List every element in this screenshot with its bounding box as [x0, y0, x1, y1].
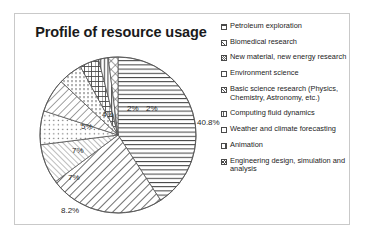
- legend-item[interactable]: New material, new energy research: [221, 53, 349, 62]
- legend-item-label: Basic science research (Physics, Chemist…: [230, 85, 349, 102]
- pie-value-label: 7%: [72, 146, 84, 155]
- legend-item[interactable]: Environment science: [221, 69, 349, 78]
- screenshot-root: Profile of resource usage: [0, 0, 365, 240]
- legend-item-label: Animation: [230, 141, 263, 150]
- legend-item-label: Computing fluid dynamics: [230, 109, 315, 118]
- legend-item[interactable]: Basic science research (Physics, Chemist…: [221, 85, 349, 102]
- pie-value-label: 4%: [102, 110, 114, 119]
- pie-value-label: 40.8%: [197, 118, 220, 127]
- pattern-horizontal-lines-swatch: [221, 24, 227, 30]
- chart-frame: Profile of resource usage: [14, 13, 350, 225]
- legend-item[interactable]: Engineering design, simulation and analy…: [221, 157, 349, 174]
- legend-item-label: New material, new energy research: [230, 53, 346, 62]
- legend-item-label: Environment science: [230, 69, 299, 78]
- legend-item-label: Petroleum exploration: [230, 22, 302, 31]
- pie-chart-area: Profile of resource usage: [15, 14, 225, 224]
- pie-value-label: 7%: [68, 173, 80, 182]
- pattern-diagonal-fine-swatch: [221, 55, 227, 61]
- pie-value-label: 8.2%: [61, 206, 79, 215]
- pie-value-label: 2%: [146, 104, 158, 113]
- pie-svg: [39, 56, 197, 214]
- pattern-dots-swatch: [221, 71, 227, 77]
- pattern-brick-swatch: [221, 127, 227, 133]
- legend-item-label: Engineering design, simulation and analy…: [230, 157, 349, 174]
- pie-slices: [40, 57, 196, 213]
- pattern-diagonal-bold-swatch: [221, 40, 227, 46]
- legend-item[interactable]: Petroleum exploration: [221, 22, 349, 31]
- chart-legend: Petroleum explorationBiomedical research…: [221, 18, 349, 222]
- pie-value-label: 2%: [127, 104, 139, 113]
- legend-item-label: Biomedical research: [230, 38, 297, 47]
- pie-graphic: 40.8%24%8.2%7%7%5%4%2%2%: [39, 56, 197, 214]
- pie-value-label: 5%: [81, 122, 93, 131]
- legend-item[interactable]: Biomedical research: [221, 38, 349, 47]
- pattern-diagonal-swatch: [221, 87, 227, 93]
- pattern-vertical-dotted-swatch: [221, 111, 227, 117]
- legend-item-label: Weather and climate forecasting: [230, 125, 336, 134]
- legend-item[interactable]: Animation: [221, 141, 349, 150]
- pattern-crosshatch-swatch: [221, 159, 227, 165]
- legend-item[interactable]: Weather and climate forecasting: [221, 125, 349, 134]
- pattern-vertical-lines-swatch: [221, 143, 227, 149]
- legend-item[interactable]: Computing fluid dynamics: [221, 109, 349, 118]
- chart-title: Profile of resource usage: [23, 24, 219, 40]
